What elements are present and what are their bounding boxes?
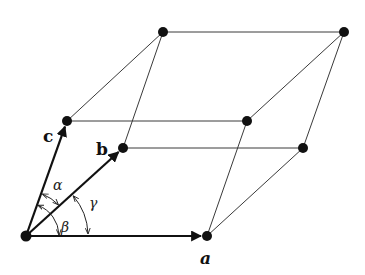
- gamma-arc: [74, 196, 89, 233]
- lattice-node: [242, 116, 252, 126]
- alpha-arc: [43, 194, 58, 204]
- lattice-node: [21, 231, 32, 242]
- beta-label: β: [60, 219, 69, 235]
- vector-a-label: a: [200, 248, 211, 268]
- lattice-node: [62, 116, 72, 126]
- lattice-node: [158, 27, 168, 37]
- cell-edge: [303, 32, 344, 148]
- alpha-label: α: [53, 177, 63, 193]
- vector-c-label: c: [43, 126, 53, 146]
- lattice-node: [118, 143, 128, 153]
- lattice-node: [339, 27, 349, 37]
- cell-edge: [207, 121, 247, 236]
- cell-edge: [67, 32, 163, 121]
- lattice-node: [298, 143, 308, 153]
- cell-edge: [123, 32, 163, 148]
- cell-edges: [67, 32, 344, 236]
- cell-edge: [247, 32, 344, 121]
- vector-b-label: b: [96, 139, 108, 159]
- lattice-nodes: [21, 27, 350, 242]
- cell-edge: [207, 148, 303, 236]
- gamma-label: γ: [89, 195, 98, 211]
- unit-cell-diagram: a b c α β γ: [0, 0, 365, 275]
- lattice-node: [202, 231, 212, 241]
